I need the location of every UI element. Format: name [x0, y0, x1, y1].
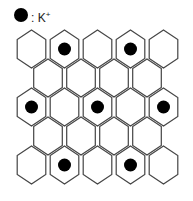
hex-cell: [34, 117, 63, 155]
k-ion-dot: [124, 43, 137, 56]
hex-cell: [17, 30, 46, 68]
k-ion-dot: [58, 159, 71, 172]
k-ion-dot: [25, 101, 38, 114]
hex-cell: [67, 117, 96, 155]
hex-cell: [67, 59, 96, 97]
hex-cell: [100, 117, 129, 155]
hex-cell: [133, 59, 162, 97]
hex-cell: [83, 30, 112, 68]
hex-cell: [17, 146, 46, 184]
hex-cell: [149, 146, 178, 184]
k-ion-dot: [157, 101, 170, 114]
hex-cell: [116, 88, 145, 126]
hex-cell: [149, 30, 178, 68]
k-ion-dot: [124, 159, 137, 172]
hex-cell: [34, 59, 63, 97]
k-ion-dot: [58, 43, 71, 56]
hex-cell: [50, 88, 79, 126]
hex-cell: [100, 59, 129, 97]
hexagonal-lattice-diagram: [0, 0, 193, 201]
k-ion-dot: [91, 101, 104, 114]
hex-cell: [83, 146, 112, 184]
hex-cell: [133, 117, 162, 155]
